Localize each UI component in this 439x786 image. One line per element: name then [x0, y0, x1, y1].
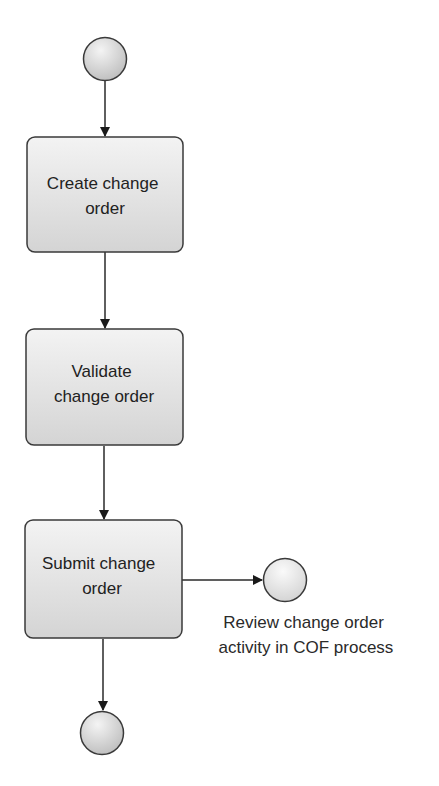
task-label-line: Validate — [72, 362, 132, 381]
task-label-line: Create change — [47, 174, 159, 193]
review-event-circle[interactable] — [264, 559, 307, 602]
end-event-circle[interactable] — [81, 712, 124, 755]
review-label-line: Review change order — [223, 613, 384, 632]
task-validate-change-order[interactable]: Validate change order — [26, 329, 183, 445]
task-label-line: change order — [54, 387, 155, 406]
task-label-line: order — [82, 579, 122, 598]
process-diagram: Create change order Validate change orde… — [0, 0, 439, 786]
task-submit-change-order[interactable]: Submit change order — [25, 520, 182, 638]
review-event-label: Review change order activity in COF proc… — [219, 613, 394, 657]
task-label-line: Submit change — [42, 554, 155, 573]
start-event-circle[interactable] — [84, 38, 127, 81]
task-create-change-order[interactable]: Create change order — [27, 137, 183, 252]
task-label-line: order — [85, 199, 125, 218]
review-label-line: activity in COF process — [219, 638, 394, 657]
